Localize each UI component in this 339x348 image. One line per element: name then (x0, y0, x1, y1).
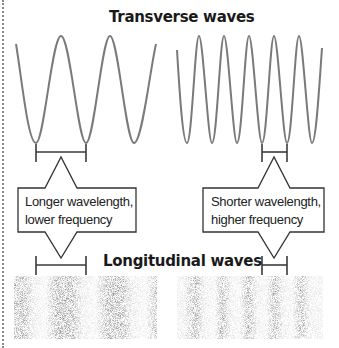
longitudinal-wave-short (177, 276, 323, 339)
callout-left-line1: Longer wavelength, (25, 193, 133, 211)
transverse-wave-long (16, 36, 156, 143)
diagram-graphics (0, 0, 339, 348)
callout-left-text: Longer wavelength, lower frequency (25, 193, 133, 229)
callout-right-line1: Shorter wavelength, (211, 193, 321, 211)
callout-right-line2: higher frequency (211, 211, 321, 229)
wavelength-bracket-right-bottom (262, 256, 287, 275)
longitudinal-waves-heading: Longitudinal waves (103, 252, 262, 270)
longitudinal-wave-long (14, 276, 157, 339)
wave-diagram: Transverse waves (0, 0, 339, 348)
callout-left-line2: lower frequency (25, 211, 133, 229)
callout-right-text: Shorter wavelength, higher frequency (211, 193, 321, 229)
transverse-wave-short (177, 36, 322, 143)
